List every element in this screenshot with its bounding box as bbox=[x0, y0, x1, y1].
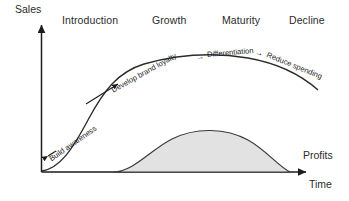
stage-label-decline: Decline bbox=[289, 14, 325, 26]
y-axis-label: Sales bbox=[15, 3, 41, 15]
profits-label: Profits bbox=[303, 149, 333, 161]
diagram-canvas bbox=[0, 0, 349, 201]
profits-area bbox=[113, 130, 290, 172]
arrow-right-icon-2: → bbox=[255, 48, 264, 58]
product-life-cycle-diagram: Sales Profits Time Introduction Growth M… bbox=[0, 0, 349, 201]
stage-label-maturity: Maturity bbox=[222, 14, 260, 26]
stage-label-introduction: Introduction bbox=[62, 14, 118, 26]
stage-label-growth: Growth bbox=[152, 14, 186, 26]
arrow-right-icon: → bbox=[195, 52, 204, 62]
x-axis-label: Time bbox=[309, 178, 332, 190]
